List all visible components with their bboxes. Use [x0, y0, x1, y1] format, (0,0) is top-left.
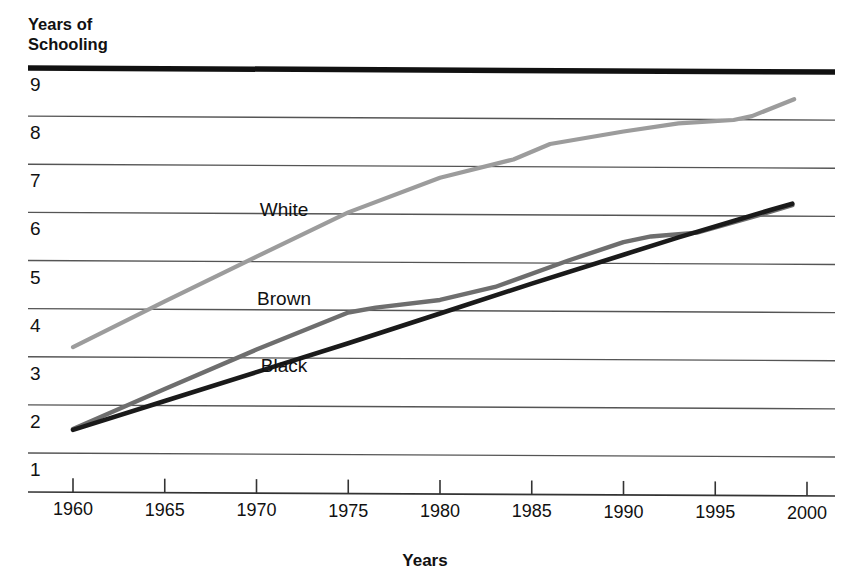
- series-line-black: [73, 204, 792, 430]
- y-tick-label-6: 6: [30, 218, 41, 239]
- y-tick-label-2: 2: [30, 411, 41, 432]
- y-tick-label-1: 1: [30, 459, 41, 480]
- x-axis-tick-labels: 196019651970197519801985199019952000: [53, 499, 827, 523]
- y-tick-label-5: 5: [30, 267, 41, 288]
- x-tick-label-1975: 1975: [328, 501, 368, 521]
- series-label-black: Black: [261, 355, 308, 376]
- gridlines: [28, 68, 835, 457]
- gridline-y-1: [28, 453, 835, 457]
- series-inline-labels: WhiteBrownBlack: [257, 199, 311, 376]
- y-axis-tick-labels: 123456789: [30, 74, 41, 480]
- y-tick-label-8: 8: [30, 122, 41, 143]
- schooling-line-chart: Years of Schooling 123456789 19601965197…: [0, 0, 851, 577]
- x-tick-label-1985: 1985: [512, 501, 552, 521]
- x-tick-label-1995: 1995: [695, 502, 735, 522]
- x-tick-label-1965: 1965: [145, 500, 185, 520]
- x-tick-label-2000: 2000: [787, 503, 827, 523]
- series-label-white: White: [260, 199, 309, 220]
- chart-title-line-2: Schooling: [28, 35, 108, 53]
- chart-title-line-1: Years of: [28, 15, 93, 33]
- x-tick-label-1960: 1960: [53, 499, 93, 519]
- gridline-y-5: [28, 261, 835, 265]
- y-tick-label-9: 9: [30, 74, 41, 95]
- x-tick-label-1990: 1990: [603, 502, 643, 522]
- data-series: [73, 99, 794, 430]
- gridline-y-7: [28, 164, 835, 168]
- chart-title-block: Years of Schooling: [28, 15, 108, 53]
- x-tick-label-1970: 1970: [236, 500, 276, 520]
- gridline-y-6: [28, 212, 835, 216]
- top-rule: [28, 68, 835, 72]
- x-axis-line: [28, 492, 835, 496]
- gridline-y-3: [28, 357, 835, 361]
- y-tick-label-7: 7: [30, 170, 41, 191]
- x-axis-title: Years: [402, 551, 447, 570]
- chart-container: Years of Schooling 123456789 19601965197…: [0, 0, 851, 577]
- y-tick-label-4: 4: [30, 315, 41, 336]
- y-tick-label-3: 3: [30, 363, 41, 384]
- series-label-brown: Brown: [257, 288, 311, 309]
- x-tick-label-1980: 1980: [420, 501, 460, 521]
